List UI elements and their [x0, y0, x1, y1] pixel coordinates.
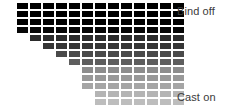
stitch-row	[30, 35, 184, 41]
knitting-diagram: Bind off Cast on	[0, 0, 226, 109]
stitch-cell	[160, 83, 171, 89]
stitch-cell	[121, 99, 132, 105]
stitch-cell	[17, 11, 28, 17]
stitch-cell	[147, 51, 158, 57]
stitch-row	[82, 67, 184, 73]
stitch-cell	[95, 19, 106, 25]
stitch-cell	[56, 27, 67, 33]
stitch-cell	[82, 51, 93, 57]
stitch-cell	[108, 3, 119, 9]
stitch-cell	[173, 75, 184, 81]
stitch-cell	[134, 51, 145, 57]
stitch-cell	[82, 35, 93, 41]
stitch-cell	[160, 67, 171, 73]
stitch-cell	[95, 99, 106, 105]
stitch-cell	[147, 35, 158, 41]
stitch-cell	[160, 3, 171, 9]
stitch-cell	[56, 35, 67, 41]
stitch-cell	[30, 11, 41, 17]
stitch-cell	[95, 59, 106, 65]
stitch-cell	[108, 11, 119, 17]
stitch-cell	[43, 27, 54, 33]
stitch-cell	[30, 27, 41, 33]
stitch-cell	[43, 43, 54, 49]
stitch-cell	[69, 11, 80, 17]
stitch-row	[95, 91, 184, 97]
stitch-cell	[121, 35, 132, 41]
stitch-cell	[108, 35, 119, 41]
stitch-cell	[95, 11, 106, 17]
stitch-cell	[56, 43, 67, 49]
stitch-cell	[121, 83, 132, 89]
stitch-cell	[147, 83, 158, 89]
stitch-cell	[160, 43, 171, 49]
stitch-cell	[43, 3, 54, 9]
stitch-cell	[173, 83, 184, 89]
stitch-cell	[160, 35, 171, 41]
stitch-cell	[134, 67, 145, 73]
stitch-cell	[82, 43, 93, 49]
stitch-cell	[95, 75, 106, 81]
stitch-cell	[95, 3, 106, 9]
stitch-cell	[134, 35, 145, 41]
stitch-cell	[147, 67, 158, 73]
stitch-cell	[69, 35, 80, 41]
stitch-cell	[82, 75, 93, 81]
stitch-row	[69, 59, 184, 65]
stitch-cell	[134, 27, 145, 33]
stitch-cell	[160, 27, 171, 33]
stitch-cell	[121, 43, 132, 49]
stitch-cell	[173, 51, 184, 57]
stitch-cell	[82, 67, 93, 73]
stitch-cell	[108, 19, 119, 25]
stitch-cell	[134, 3, 145, 9]
stitch-row	[43, 43, 184, 49]
stitch-cell	[95, 51, 106, 57]
stitch-row	[56, 51, 184, 57]
stitch-cell	[173, 35, 184, 41]
stitch-row	[95, 99, 184, 105]
stitch-cell	[121, 67, 132, 73]
stitch-cell	[108, 27, 119, 33]
stitch-cell	[30, 35, 41, 41]
stitch-cell	[147, 3, 158, 9]
stitch-cell	[134, 75, 145, 81]
stitch-cell	[121, 91, 132, 97]
stitch-cell	[69, 59, 80, 65]
stitch-cell	[108, 99, 119, 105]
stitch-cell	[108, 75, 119, 81]
stitch-row	[17, 3, 184, 9]
stitch-cell	[160, 19, 171, 25]
stitch-cell	[108, 43, 119, 49]
stitch-grid	[0, 0, 176, 109]
stitch-cell	[17, 3, 28, 9]
stitch-cell	[147, 19, 158, 25]
stitch-cell	[69, 3, 80, 9]
stitch-cell	[82, 59, 93, 65]
stitch-cell	[134, 83, 145, 89]
stitch-cell	[56, 19, 67, 25]
stitch-cell	[56, 51, 67, 57]
stitch-cell	[108, 67, 119, 73]
stitch-cell	[173, 19, 184, 25]
stitch-cell	[134, 11, 145, 17]
stitch-cell	[160, 51, 171, 57]
stitch-row	[17, 11, 184, 17]
stitch-cell	[121, 59, 132, 65]
stitch-cell	[160, 75, 171, 81]
stitch-cell	[30, 19, 41, 25]
stitch-cell	[108, 91, 119, 97]
stitch-cell	[173, 67, 184, 73]
stitch-cell	[43, 35, 54, 41]
stitch-cell	[82, 27, 93, 33]
stitch-row	[17, 27, 184, 33]
stitch-cell	[69, 27, 80, 33]
stitch-cell	[121, 27, 132, 33]
stitch-cell	[108, 83, 119, 89]
stitch-cell	[82, 19, 93, 25]
stitch-cell	[17, 19, 28, 25]
stitch-cell	[134, 59, 145, 65]
stitch-cell	[160, 91, 171, 97]
stitch-cell	[95, 67, 106, 73]
stitch-cell	[30, 3, 41, 9]
